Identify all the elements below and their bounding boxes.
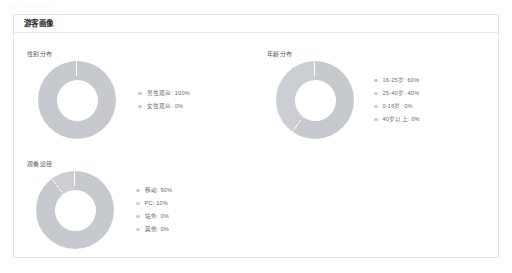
chart-row-gender: 男性观众: 100%女性观众: 0% bbox=[20, 61, 260, 139]
legend-item[interactable]: 25-40岁: 40% bbox=[374, 87, 420, 100]
donut-chart-gender-distribution bbox=[38, 61, 116, 139]
legend-dot-icon bbox=[138, 105, 142, 109]
page-title: 游客画像 bbox=[24, 20, 53, 28]
legend-dot-icon bbox=[374, 79, 378, 83]
legend-item-label: 16-25岁: 60% bbox=[383, 78, 420, 84]
legend-dot-icon bbox=[136, 228, 140, 232]
legend-item-label: 女性观众: 0% bbox=[147, 104, 184, 110]
card-body: 性别分布 男性观众: 100%女性观众: 0% 年龄分布 16-25岁: 60%… bbox=[14, 33, 498, 259]
legend-viewing-channel: 移动: 90%PC: 10%站外: 0%其他: 0% bbox=[136, 184, 172, 236]
legend-item-label: 0-16岁: 0% bbox=[383, 104, 413, 110]
legend-item[interactable]: PC: 10% bbox=[136, 197, 172, 210]
legend-item-label: 其他: 0% bbox=[145, 227, 169, 233]
legend-dot-icon bbox=[374, 105, 378, 109]
legend-item-label: 40岁以上: 0% bbox=[383, 117, 420, 123]
chart-title-gender-distribution: 性别分布 bbox=[27, 51, 260, 57]
legend-item[interactable]: 40岁以上: 0% bbox=[374, 113, 420, 126]
chart-block-age-distribution: 年龄分布 16-25岁: 60%25-40岁: 40%0-16岁: 0%40岁以… bbox=[260, 51, 496, 139]
donut-chart-viewing-channel bbox=[36, 171, 114, 249]
legend-item[interactable]: 16-25岁: 60% bbox=[374, 74, 420, 87]
legend-item-label: 移动: 90% bbox=[145, 188, 173, 194]
chart-title-age-distribution: 年龄分布 bbox=[267, 51, 496, 57]
legend-item[interactable]: 移动: 90% bbox=[136, 184, 172, 197]
legend-age-distribution: 16-25岁: 60%25-40岁: 40%0-16岁: 0%40岁以上: 0% bbox=[374, 74, 420, 126]
top-artifact-strip: — —— —— — — bbox=[0, 0, 512, 12]
donut-hole-gender bbox=[57, 80, 98, 121]
legend-item[interactable]: 其他: 0% bbox=[136, 223, 172, 236]
legend-dot-icon bbox=[136, 215, 140, 219]
donut-chart-age-distribution bbox=[276, 61, 354, 139]
card-header: 游客画像 bbox=[14, 15, 498, 32]
chart-block-viewing-channel: 观看途径 移动: 90%PC: 10%站外: 0%其他: 0% bbox=[20, 161, 260, 249]
visitor-profile-card: 游客画像 性别分布 男性观众: 100%女性观众: 0% 年龄分布 bbox=[13, 14, 499, 258]
donut-hole-age bbox=[295, 80, 336, 121]
legend-gender-distribution: 男性观众: 100%女性观众: 0% bbox=[138, 87, 190, 113]
donut-hole-channel bbox=[55, 190, 96, 231]
legend-item-label: PC: 10% bbox=[145, 201, 168, 207]
legend-dot-icon bbox=[136, 189, 140, 193]
legend-dot-icon bbox=[136, 202, 140, 206]
legend-dot-icon bbox=[138, 92, 142, 96]
legend-item[interactable]: 站外: 0% bbox=[136, 210, 172, 223]
chart-row-channel: 移动: 90%PC: 10%站外: 0%其他: 0% bbox=[20, 171, 260, 249]
legend-item-label: 站外: 0% bbox=[145, 214, 169, 220]
legend-item[interactable]: 男性观众: 100% bbox=[138, 87, 190, 100]
chart-row-age: 16-25岁: 60%25-40岁: 40%0-16岁: 0%40岁以上: 0% bbox=[260, 61, 496, 139]
top-artifact-text: — —— —— — — bbox=[6, 3, 52, 9]
legend-item[interactable]: 0-16岁: 0% bbox=[374, 100, 420, 113]
legend-item-label: 男性观众: 100% bbox=[147, 91, 190, 97]
chart-block-gender-distribution: 性别分布 男性观众: 100%女性观众: 0% bbox=[20, 51, 260, 139]
legend-dot-icon bbox=[374, 92, 378, 96]
legend-item-label: 25-40岁: 40% bbox=[383, 91, 420, 97]
chart-title-viewing-channel: 观看途径 bbox=[27, 161, 260, 167]
legend-dot-icon bbox=[374, 118, 378, 122]
legend-item[interactable]: 女性观众: 0% bbox=[138, 100, 190, 113]
